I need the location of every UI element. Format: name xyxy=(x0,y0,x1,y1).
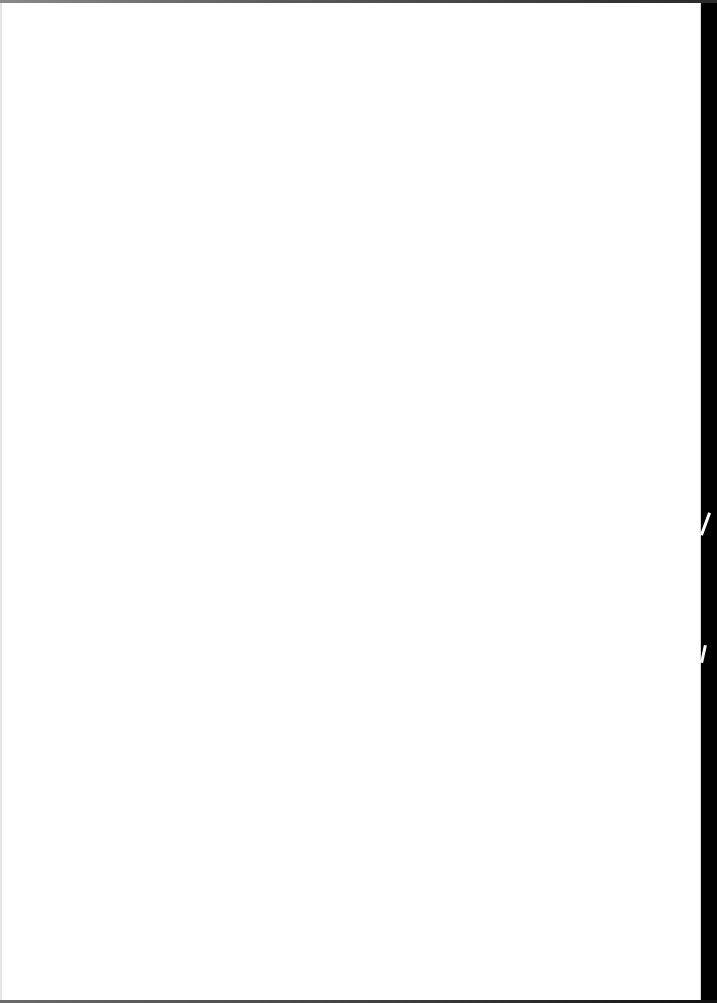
scanner-background xyxy=(701,0,717,1003)
blank-page xyxy=(0,2,701,1000)
page-top-edge xyxy=(0,0,717,3)
page-left-edge xyxy=(0,0,2,1003)
